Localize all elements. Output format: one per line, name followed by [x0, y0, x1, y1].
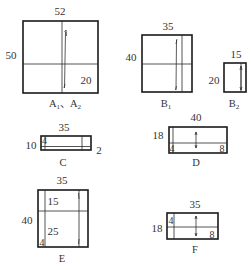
panel-d-inner-label-right: 8: [220, 143, 225, 154]
panel-f-height-label: 18: [152, 222, 164, 234]
panel-c-height-label: 10: [26, 139, 38, 151]
panel-e-inner-label-top: 15: [48, 195, 60, 207]
panel-f: 35 18 4 8 F: [152, 198, 219, 255]
panel-c-side-label: 2: [96, 144, 102, 156]
panel-c-name: C: [59, 157, 66, 168]
panel-a: 52 50 20 A1、A2: [6, 5, 99, 111]
panel-c: 35 10 2 4 C: [26, 121, 102, 168]
panel-f-inner-label-right: 8: [210, 229, 215, 240]
panel-a-name: A1、A2: [49, 98, 82, 111]
panel-d-name: D: [192, 157, 200, 168]
panel-b2: 15 20 B2: [209, 48, 247, 111]
diagram-canvas: 52 50 20 A1、A2 35 40 B1 15 20 B2: [0, 0, 251, 270]
panel-e: 35 40 15 25 4 E: [22, 174, 89, 264]
panel-f-inner-label-left: 4: [169, 215, 174, 226]
panel-b2-name: B2: [229, 98, 240, 111]
panel-e-height-label: 40: [22, 214, 34, 226]
panel-b1: 35 40 B1: [126, 20, 193, 111]
panel-a-height-label: 50: [6, 49, 18, 61]
grain-arrow-icon: [176, 39, 178, 90]
panel-b2-outline: [224, 63, 246, 92]
panel-d-width-label: 40: [191, 111, 203, 123]
panel-f-width-label: 35: [190, 198, 202, 210]
grain-arrow-icon: [64, 30, 67, 88]
panel-e-outline: [38, 190, 88, 247]
panel-e-inner-label-bottom: 25: [48, 225, 60, 237]
panel-a-width-label: 52: [55, 5, 66, 17]
panel-b2-height-label: 20: [209, 74, 221, 86]
panel-b2-width-label: 15: [231, 48, 243, 60]
panel-c-outline: [41, 136, 91, 150]
panel-e-width-label: 35: [57, 174, 69, 186]
panel-c-width-label: 35: [59, 121, 71, 133]
panel-e-name: E: [59, 253, 65, 264]
panel-d-inner-label-left: 4: [170, 143, 175, 154]
panel-f-name: F: [192, 244, 198, 255]
grain-arrow-icon: [195, 216, 197, 236]
panel-b1-outline: [142, 35, 192, 92]
panel-c-inner-label: 4: [42, 135, 47, 146]
panel-a-inner-label: 20: [81, 74, 93, 86]
grain-arrow-icon: [195, 132, 197, 148]
panel-b1-width-label: 35: [163, 20, 175, 32]
panel-b1-height-label: 40: [126, 51, 138, 63]
panel-d-outline: [169, 127, 227, 153]
panel-d-height-label: 18: [153, 129, 165, 141]
panel-b1-name: B1: [161, 98, 172, 111]
panel-e-inner-label-corner: 4: [40, 237, 45, 248]
panel-d: 40 18 4 8 D: [153, 111, 228, 168]
grain-arrow-icon: [240, 66, 242, 90]
